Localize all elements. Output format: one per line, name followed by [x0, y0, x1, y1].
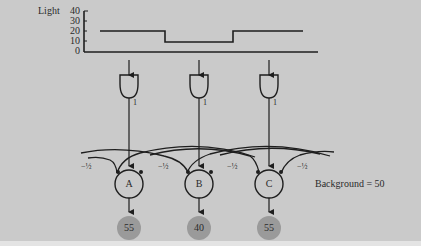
- output-c-value: 55: [257, 223, 281, 233]
- lateral-inhibition-diagram: Light 40 30 20 10 0 1 1 1 −½ −½ −½ −½ A …: [0, 0, 421, 246]
- neuron-b-label: B: [189, 179, 209, 189]
- light-graph: [84, 11, 318, 52]
- neuron-a-label: A: [119, 179, 139, 189]
- y-tick: 0: [60, 46, 80, 56]
- light-signal-line: [100, 31, 303, 42]
- inhibition-label: −½: [227, 163, 238, 171]
- inhibition-label: −½: [81, 163, 92, 171]
- weight-c: 1: [273, 99, 277, 107]
- y-axis-label: Light: [38, 6, 60, 16]
- inhibition-label: −½: [158, 163, 169, 171]
- weight-b: 1: [203, 99, 207, 107]
- output-b-value: 40: [187, 223, 211, 233]
- neuron-c-label: C: [259, 179, 279, 189]
- background-label: Background = 50: [315, 179, 385, 189]
- receptor-c: [260, 60, 278, 166]
- inhibition-label: −½: [297, 163, 308, 171]
- receptor-b: [190, 60, 208, 166]
- output-a-value: 55: [117, 223, 141, 233]
- weight-a: 1: [133, 99, 137, 107]
